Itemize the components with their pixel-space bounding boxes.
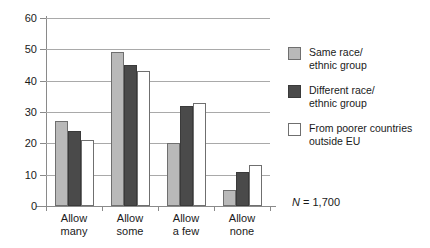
bar-group-3 [158,18,214,206]
legend-item-3[interactable]: From poorer countriesoutside EU [288,122,426,147]
bar-series-2-cat-1 [68,131,81,206]
x-tick-mark-3 [158,206,159,211]
x-axis-label-line: none [207,225,277,238]
bar-group-4 [214,18,270,206]
legend-label-line: outside EU [309,135,412,148]
bar-cluster [55,18,94,206]
bar-series-3-cat-2 [137,71,150,206]
legend-label-1: Same race/ethnic group [309,46,367,71]
bar-chart-figure: 0102030405060 AllowmanyAllowsomeAllowa f… [0,0,430,248]
legend-swatch-2 [288,85,301,98]
plot-area: 0102030405060 [46,18,270,206]
y-tick-label-20: 20 [25,138,37,149]
legend-label-line: ethnic group [309,59,367,72]
x-tick-mark-1 [46,206,47,211]
legend-swatch-1 [288,47,301,60]
sample-size-annotation: N = 1,700 [292,196,340,208]
bar-series-3-cat-3 [193,103,206,206]
x-axis-label-4: Allownone [207,212,277,238]
x-tick-mark-2 [102,206,103,211]
legend-item-2[interactable]: Different race/ethnic group [288,84,426,109]
legend-label-3: From poorer countriesoutside EU [309,122,412,147]
bar-series-1-cat-2 [111,52,124,206]
y-tick-label-30: 30 [25,107,37,118]
sample-size-value: = 1,700 [300,196,340,208]
y-tick-label-0: 0 [31,201,37,212]
legend-swatch-3 [288,123,301,136]
chart-legend: Same race/ethnic groupDifferent race/eth… [288,46,426,160]
legend-label-line: Different race/ [309,84,375,97]
legend-label-2: Different race/ethnic group [309,84,375,109]
x-axis-line [36,206,276,207]
bar-cluster [223,18,262,206]
bar-series-3-cat-4 [249,165,262,206]
legend-label-line: ethnic group [309,97,375,110]
legend-label-line: From poorer countries [309,122,412,135]
bar-series-2-cat-3 [180,106,193,206]
sample-size-symbol: N [292,196,300,208]
bar-series-2-cat-2 [124,65,137,206]
bar-cluster [111,18,150,206]
bar-series-3-cat-1 [81,140,94,206]
y-tick-label-50: 50 [25,44,37,55]
bar-group-2 [102,18,158,206]
y-tick-label-10: 10 [25,169,37,180]
x-tick-mark-end [270,206,271,211]
bar-series-1-cat-4 [223,190,236,206]
bar-group-1 [46,18,102,206]
bar-series-1-cat-3 [167,143,180,206]
x-axis-label-line: Allow [207,212,277,225]
x-tick-mark-4 [214,206,215,211]
y-tick-label-40: 40 [25,75,37,86]
legend-label-line: Same race/ [309,46,367,59]
bar-series-2-cat-4 [236,172,249,206]
bar-cluster [167,18,206,206]
y-tick-label-60: 60 [25,13,37,24]
bar-series-1-cat-1 [55,121,68,206]
legend-item-1[interactable]: Same race/ethnic group [288,46,426,71]
